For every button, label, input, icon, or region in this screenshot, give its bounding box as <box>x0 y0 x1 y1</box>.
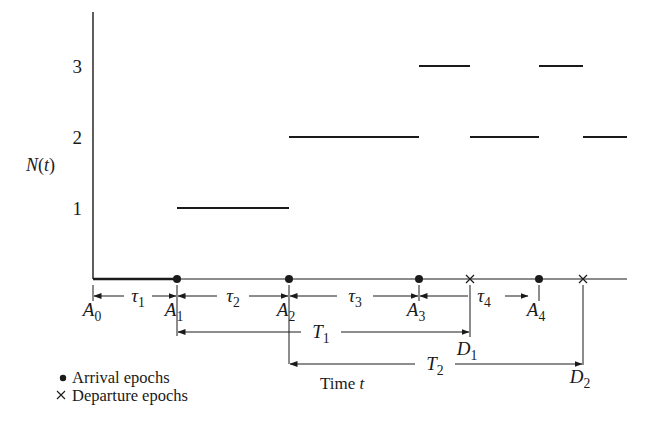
arrival-marker-A4 <box>535 275 543 283</box>
arrival-marker-A1 <box>173 275 181 283</box>
y-tick-label-2: 2 <box>73 127 83 148</box>
epoch-label-D2: D2 <box>569 366 591 391</box>
legend-departure-icon <box>57 391 65 399</box>
interval-tau3-label: τ3 <box>348 285 362 310</box>
y-tick-label-1: 1 <box>73 198 83 219</box>
epoch-label-A1: A1 <box>163 299 184 324</box>
interval-tau1-label: τ1 <box>131 285 145 310</box>
legend-departure-label: Departure epochs <box>72 386 188 405</box>
epoch-label-D1: D1 <box>456 338 478 363</box>
epoch-label-A0: A0 <box>81 299 102 324</box>
y-tick-label-3: 3 <box>73 56 83 77</box>
interval-tau4-label: τ4 <box>477 285 491 310</box>
y-axis-label: N(t) <box>25 155 55 176</box>
x-axis-label: Time t <box>320 374 366 393</box>
interval-tau2-label: τ2 <box>226 285 240 310</box>
legend-arrival-label: Arrival epochs <box>72 368 170 387</box>
epoch-label-A4: A4 <box>525 299 546 324</box>
epoch-label-A3: A3 <box>405 299 426 324</box>
arrival-departure-diagram: 123N(t)A0A1A2A3D1A4D2τ1τ2τ3τ4T1T2Time tA… <box>0 0 655 423</box>
epoch-label-A2: A2 <box>275 299 296 324</box>
system-time-T1-label: T1 <box>312 321 330 346</box>
arrival-marker-A3 <box>415 275 423 283</box>
system-time-T2-label: T2 <box>426 353 444 378</box>
arrival-marker-A2 <box>285 275 293 283</box>
legend-arrival-icon <box>60 375 66 381</box>
